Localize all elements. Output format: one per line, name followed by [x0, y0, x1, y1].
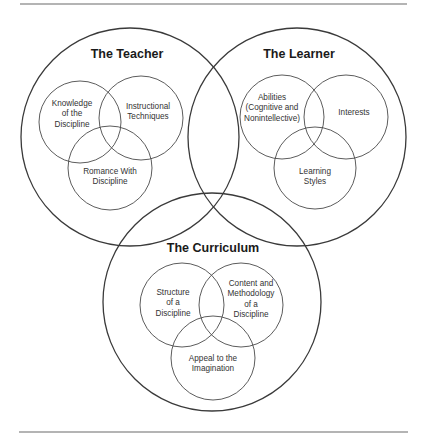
label-line: Imagination	[192, 364, 235, 373]
label-line: Abilities	[258, 93, 286, 102]
label-line: Discipline	[54, 120, 89, 129]
knowledge-of-discipline-label: Knowledgeof theDiscipline	[52, 99, 93, 129]
label-line: Interests	[338, 108, 369, 117]
appeal-to-imagination-label: Appeal to theImagination	[189, 354, 238, 373]
label-line: of the	[62, 109, 83, 118]
label-line: Structure	[156, 288, 190, 297]
label-line: Appeal to the	[189, 354, 238, 363]
label-line: Discipline	[233, 310, 268, 319]
label-line: of a	[244, 300, 258, 309]
romance-with-discipline-label: Romance WithDiscipline	[83, 167, 137, 186]
instructional-techniques-label: InstructionalTechniques	[126, 102, 170, 121]
label-line: Methodology	[228, 289, 276, 298]
learner-group: The Learner Abilities(Cognitive andNonin…	[188, 28, 406, 246]
label-line: Styles	[304, 177, 326, 186]
content-and-methodology-label: Content andMethodologyof aDiscipline	[228, 279, 276, 319]
curriculum-outer-circle	[103, 193, 321, 411]
teacher-group: The Teacher Knowledgeof theDiscipline In…	[21, 28, 239, 246]
learner-title: The Learner	[263, 47, 335, 61]
label-line: of a	[166, 298, 180, 307]
learning-styles-label: LearningStyles	[299, 167, 331, 186]
label-line: Content and	[229, 279, 274, 288]
label-line: Discipline	[155, 309, 190, 318]
curriculum-title: The Curriculum	[167, 241, 259, 255]
content-and-methodology-circle	[199, 263, 283, 347]
structure-of-discipline-label: Structureof aDiscipline	[155, 288, 190, 318]
interests-label: Interests	[338, 108, 369, 117]
abilities-label: Abilities(Cognitive andNonintellective)	[244, 93, 300, 123]
label-line: Learning	[299, 167, 331, 176]
teacher-title: The Teacher	[91, 47, 164, 61]
curriculum-group: The Curriculum Structureof aDiscipline C…	[103, 193, 321, 411]
label-line: Knowledge	[52, 99, 93, 108]
venn-diagram: The Teacher Knowledgeof theDiscipline In…	[0, 0, 426, 440]
label-line: (Cognitive and	[246, 103, 299, 112]
label-line: Romance With	[83, 167, 137, 176]
label-line: Techniques	[127, 112, 168, 121]
label-line: Instructional	[126, 102, 170, 111]
label-line: Discipline	[92, 177, 127, 186]
label-line: Nonintellective)	[244, 114, 300, 123]
